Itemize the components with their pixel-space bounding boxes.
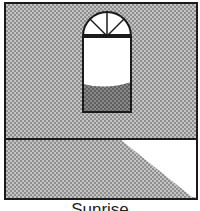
sunrise-illustration [0, 0, 200, 200]
arched-window [83, 12, 131, 112]
caption: Sunrise [0, 200, 200, 211]
